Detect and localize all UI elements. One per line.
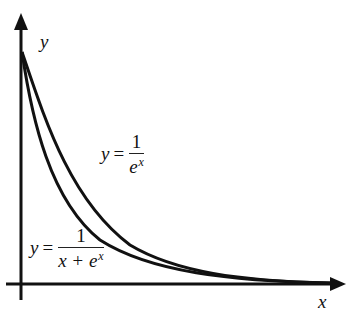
- fraction-denominator: ex: [129, 156, 144, 177]
- denominator-exponent: x: [98, 249, 103, 263]
- fraction-numerator: 1: [74, 226, 88, 246]
- label-lhs: y: [30, 237, 38, 259]
- y-axis-label: y: [40, 32, 48, 51]
- diagram-canvas: [0, 0, 356, 320]
- x-axis-arrow-icon: [330, 277, 346, 291]
- fraction-bar: [129, 153, 144, 154]
- fraction-denominator: x + ex: [58, 250, 104, 271]
- fraction: 1 ex: [129, 132, 144, 177]
- y-axis-arrow-icon: [14, 13, 28, 30]
- denominator-exponent: x: [139, 155, 144, 169]
- label-one-over-e-to-x: y = 1 ex: [101, 132, 144, 177]
- x-axis-label: x: [318, 292, 326, 311]
- denominator-base: e: [129, 156, 137, 177]
- label-one-over-x-plus-e-to-x: y = 1 x + ex: [30, 226, 104, 271]
- fraction: 1 x + ex: [58, 226, 104, 271]
- label-lhs: y: [101, 143, 109, 165]
- label-equals: =: [113, 143, 124, 165]
- fraction-numerator: 1: [130, 132, 144, 152]
- label-equals: =: [42, 237, 53, 259]
- denominator-base: x + e: [58, 250, 97, 271]
- fraction-bar: [58, 247, 104, 248]
